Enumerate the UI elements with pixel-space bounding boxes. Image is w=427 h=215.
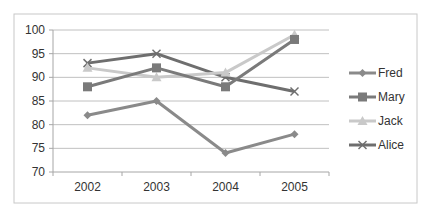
legend-label: Mary <box>378 90 405 104</box>
y-tick-label: 90 <box>32 70 46 84</box>
line-chart: 707580859095100 2002200320042005 FredMar… <box>0 0 427 215</box>
x-tick-label: 2005 <box>281 180 308 194</box>
square-marker <box>290 35 299 44</box>
x-tick-label: 2003 <box>143 180 170 194</box>
y-tick-label: 85 <box>32 94 46 108</box>
y-tick-label: 70 <box>32 165 46 179</box>
y-tick-label: 100 <box>25 23 45 37</box>
data-point <box>83 82 92 91</box>
legend-label: Jack <box>378 114 404 128</box>
square-marker <box>152 63 161 72</box>
chart-border <box>14 14 417 203</box>
x-tick-label: 2002 <box>74 180 101 194</box>
y-tick-label: 80 <box>32 118 46 132</box>
square-marker <box>83 82 92 91</box>
legend-label: Fred <box>378 66 403 80</box>
y-tick-label: 95 <box>32 47 46 61</box>
square-marker <box>221 82 230 91</box>
data-point <box>221 82 230 91</box>
data-point <box>152 63 161 72</box>
legend-marker <box>358 93 367 102</box>
x-tick-label: 2004 <box>212 180 239 194</box>
legend-label: Alice <box>378 138 404 152</box>
square-marker <box>358 93 367 102</box>
y-tick-label: 75 <box>32 141 46 155</box>
data-point <box>290 35 299 44</box>
